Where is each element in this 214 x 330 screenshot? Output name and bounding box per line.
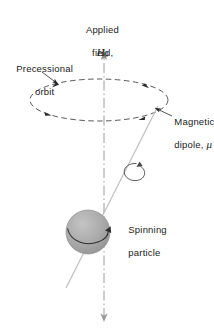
particle-line1: Spinning — [128, 224, 167, 235]
spin-arrow — [124, 161, 144, 180]
dipole-symbol-mu: μ — [206, 138, 212, 150]
field-symbol-subscript: 0 — [105, 50, 109, 59]
orbit-arrowhead-lower-left — [44, 112, 52, 117]
dipole-line1: Magnetic — [174, 116, 214, 127]
magnetic-dipole-label: Magnetic dipole, μ — [163, 104, 214, 162]
precessional-orbit-label: Precessional orbit — [2, 51, 76, 109]
spinning-particle-label: Spinning particle — [117, 212, 179, 270]
dipole-line2: dipole, — [174, 139, 206, 150]
orbit-arrowhead-lower-right — [138, 117, 146, 123]
applied-field-line1: Applied — [86, 24, 119, 35]
precessional-line2: orbit — [35, 86, 54, 97]
applied-field-axis — [100, 52, 107, 322]
precession-diagram: Applied field, H0 Precessional orbit Mag… — [0, 0, 214, 330]
particle-sphere — [66, 210, 110, 254]
precessional-line1: Precessional — [16, 63, 73, 74]
field-symbol-h: H — [97, 47, 105, 58]
spin-arrow-head — [136, 161, 142, 167]
particle-line2: particle — [128, 247, 160, 258]
